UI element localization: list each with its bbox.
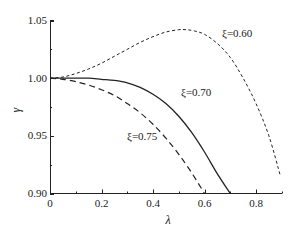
y-tick-label: 1.05	[28, 14, 48, 26]
annotation-xi-0-70: ξ=0.70	[181, 86, 212, 99]
line-chart: 0 0.2 0.4 0.6 0.8 0.90 0.95 1.00 1.05 λ …	[0, 0, 297, 239]
y-tick-label: 0.90	[28, 187, 48, 199]
tick-labels: 0 0.2 0.4 0.6 0.8 0.90 0.95 1.00 1.05	[28, 14, 264, 209]
y-axis-label: γ	[9, 107, 23, 112]
y-tick-label: 0.95	[28, 129, 48, 141]
annotation-xi-0-60: ξ=0.60	[222, 27, 253, 40]
x-tick-label: 0.6	[198, 197, 212, 209]
axes	[50, 20, 282, 194]
x-tick-label: 0.4	[146, 197, 160, 209]
x-tick-label: 0.2	[95, 197, 109, 209]
y-tick-label: 1.00	[28, 72, 48, 84]
ticks	[50, 22, 283, 195]
x-tick-label: 0.8	[249, 197, 263, 209]
annotation-xi-0-75: ξ=0.75	[127, 130, 158, 143]
x-axis-label: λ	[164, 213, 170, 227]
x-tick-label: 0	[47, 197, 53, 209]
